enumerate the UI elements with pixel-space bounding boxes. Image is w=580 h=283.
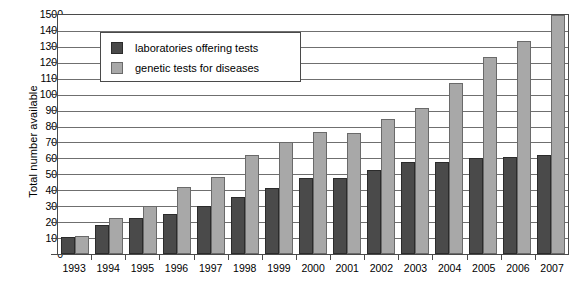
legend-swatch-light-gray-icon [111,62,123,74]
bar [449,83,463,254]
x-axis-tick-label: 1993 [57,261,91,277]
legend-item-label: laboratories offering tests [135,42,258,54]
bar [245,155,259,254]
bar [551,15,565,254]
bar [109,218,123,254]
bar [517,41,531,255]
x-axis-tick-labels: 1993199419951996199719981999200020012002… [57,261,569,277]
x-axis-tick-label: 2002 [364,261,398,277]
bar [129,218,143,254]
x-axis-tick-mark [262,255,263,260]
bar [415,108,429,254]
x-axis-tick-label: 2004 [433,261,467,277]
bar [381,119,395,254]
bar [299,178,313,254]
x-axis-tick-mark [228,255,229,260]
bar [367,170,381,254]
bar [469,158,483,254]
x-axis-tick-mark [467,255,468,260]
x-axis-tick-label: 2001 [330,261,364,277]
bar-group [330,15,364,254]
x-axis-tick-label: 2006 [501,261,535,277]
x-axis-tick-label: 2003 [398,261,432,277]
bar [401,162,415,254]
bar [75,236,89,254]
bar-group [466,15,500,254]
legend-item-label: genetic tests for diseases [135,62,259,74]
x-axis-tick-label: 1996 [159,261,193,277]
x-axis-tick-label: 2000 [296,261,330,277]
x-axis-tick-label: 2005 [467,261,501,277]
x-axis-tick-label: 1994 [91,261,125,277]
bar [279,142,293,254]
x-axis-tick-label: 1998 [228,261,262,277]
bar [197,206,211,254]
bar-chart: Total number available 15001400130012001… [0,0,580,283]
bar [435,162,449,254]
bar-group [500,15,534,254]
x-axis-tick-mark [194,255,195,260]
x-axis-tick-mark [125,255,126,260]
bar [231,197,245,254]
legend-item: laboratories offering tests [111,38,300,58]
bar [313,132,327,254]
x-axis-tick-mark [330,255,331,260]
x-axis-tick-mark [432,255,433,260]
x-axis-tick-mark [501,255,502,260]
x-axis-tick-mark [364,255,365,260]
bar [503,157,517,254]
x-axis-tick-label: 2007 [535,261,569,277]
bar [143,206,157,254]
x-axis-tick-label: 1997 [194,261,228,277]
bar [333,178,347,254]
x-axis-tick-mark [296,255,297,260]
legend-swatch-dark-gray-icon [111,42,123,54]
bar-group [398,15,432,254]
bar [163,214,177,254]
bar-group [296,15,330,254]
x-axis-tick-marks [57,255,569,260]
bar [265,188,279,254]
bar [95,225,109,254]
x-axis-tick-mark [535,255,536,260]
bar-group [364,15,398,254]
bar-group [534,15,568,254]
x-axis-tick-mark [159,255,160,260]
bar [483,57,497,254]
bar-group [58,15,92,254]
bar [177,187,191,254]
x-axis-tick-mark [91,255,92,260]
x-axis-tick-mark [398,255,399,260]
bar [61,237,75,254]
legend-item: genetic tests for diseases [111,58,300,78]
chart-legend: laboratories offering tests genetic test… [100,32,301,82]
bar [537,155,551,254]
bar [211,177,225,254]
bar [347,133,361,254]
x-axis-tick-label: 1999 [262,261,296,277]
bar-group [432,15,466,254]
x-axis-tick-label: 1995 [125,261,159,277]
